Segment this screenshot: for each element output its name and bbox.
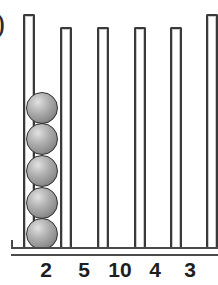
column-label-4: 4 xyxy=(149,259,161,281)
tube-column-3[interactable] xyxy=(97,27,109,252)
abacus-diagram: ) 2 5 10 4 3 xyxy=(0,0,218,285)
column-label-1: 2 xyxy=(40,259,52,281)
bead[interactable] xyxy=(26,123,58,155)
tube-column-2[interactable] xyxy=(60,27,72,252)
column-label-3: 10 xyxy=(108,259,131,281)
tube-column-4[interactable] xyxy=(134,27,146,252)
column-label-5: 3 xyxy=(184,259,196,281)
bead[interactable] xyxy=(26,92,58,124)
tube-column-6[interactable] xyxy=(206,14,218,252)
bead[interactable] xyxy=(26,187,58,219)
item-marker: ) xyxy=(0,8,5,38)
base-rail xyxy=(11,247,218,256)
tube-column-5[interactable] xyxy=(170,27,182,252)
bead[interactable] xyxy=(26,155,58,187)
bead[interactable] xyxy=(26,218,58,250)
column-label-2: 5 xyxy=(78,259,90,281)
